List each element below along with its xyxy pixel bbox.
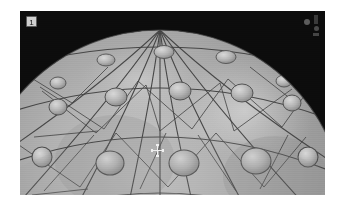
indicator-dot-lower[interactable] [314, 26, 319, 31]
indicator-bar [313, 33, 319, 36]
geodesic-sphere-render [20, 11, 325, 195]
status-indicator-cluster[interactable] [303, 15, 321, 37]
indicator-square[interactable] [314, 15, 318, 24]
3d-viewport[interactable]: 1 [20, 11, 325, 195]
screenshot-root: 1 [0, 0, 340, 208]
indicator-dot-upper[interactable] [304, 19, 310, 25]
viewport-index-badge[interactable]: 1 [26, 16, 37, 27]
